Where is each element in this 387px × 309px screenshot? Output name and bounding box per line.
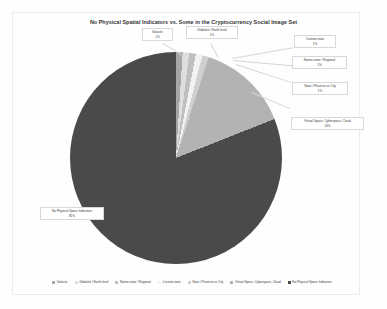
legend-swatch: [115, 281, 118, 284]
legend-label: Globalist / Earth-level: [79, 280, 108, 285]
legend-item[interactable]: Custom-state: [158, 280, 181, 285]
pie-surface[interactable]: [70, 52, 282, 264]
callout-virtual-space: Virtual Space, Cyberspace, Cloud 14%: [291, 117, 364, 130]
callout-no-physical-space: No Physical Space Indicators 81%: [40, 207, 104, 220]
legend-item[interactable]: Globalist / Earth-level: [75, 280, 109, 285]
legend-label: State / Province or City: [192, 280, 223, 285]
callout-value: 1%: [295, 89, 346, 93]
legend-label: Nation-state / Regional: [120, 280, 151, 285]
legend-item[interactable]: Galactic: [52, 280, 68, 285]
callout-value: 1%: [189, 33, 236, 37]
callout-value: 14%: [294, 124, 362, 128]
legend-swatch: [288, 281, 291, 284]
chart-page: No Physical Spatial Indicators vs. Some …: [0, 0, 387, 309]
callout-state-province: State / Province or City 1%: [292, 82, 348, 95]
legend-label: Galactic: [57, 280, 68, 285]
callout-value: 81%: [43, 214, 102, 218]
legend-item[interactable]: Nation-state / Regional: [115, 280, 151, 285]
legend-swatch: [52, 281, 55, 284]
callout-nation-state: Nation-state / Regional 1%: [292, 56, 347, 69]
callout-value: 1%: [295, 63, 345, 67]
legend-swatch: [75, 281, 78, 284]
callout-value: 1%: [297, 42, 334, 46]
legend-swatch: [230, 281, 233, 284]
callout-value: 1%: [145, 35, 171, 39]
legend-item[interactable]: No Physical Space Indicators: [288, 280, 332, 285]
callout-custom-state: Custom-state 1%: [294, 35, 336, 48]
chart-title: No Physical Spatial Indicators vs. Some …: [0, 19, 387, 26]
legend-label: No Physical Space Indicators: [292, 280, 332, 285]
legend-label: Custom-state: [162, 280, 180, 285]
pie-chart: [70, 52, 282, 264]
callout-globalist: Globalist / Earth-level 1%: [186, 26, 238, 39]
legend-label: Virtual Space, Cyberspace, Cloud: [235, 280, 281, 285]
legend-item[interactable]: State / Province or City: [188, 280, 224, 285]
legend-swatch: [188, 281, 191, 284]
callout-galactic: Galactic 1%: [142, 28, 173, 41]
legend-item[interactable]: Virtual Space, Cyberspace, Cloud: [230, 280, 280, 285]
chart-legend: GalacticGlobalist / Earth-levelNation-st…: [14, 280, 370, 285]
legend-swatch: [158, 281, 161, 284]
